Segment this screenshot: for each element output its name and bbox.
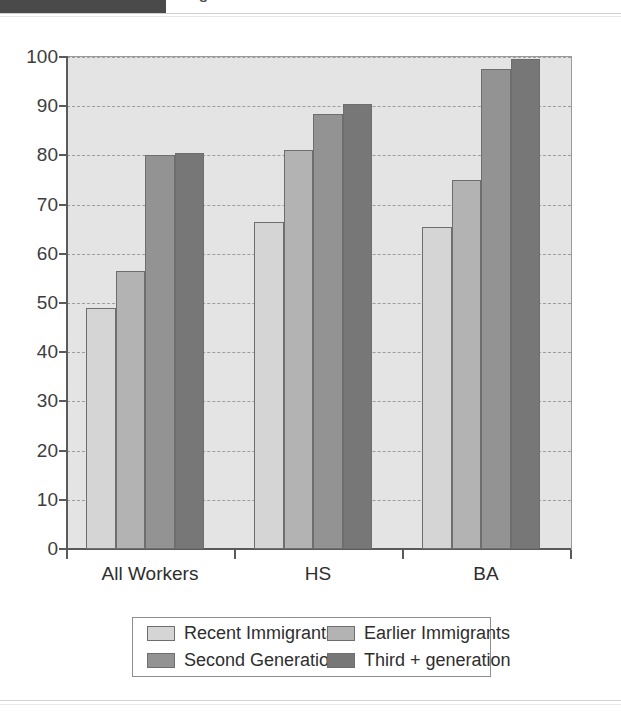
legend-item: Recent Immigrants (147, 620, 335, 646)
y-tick-label: 0 (14, 539, 58, 558)
page-title: Wage Differential of Mexican Female Rela… (176, 0, 621, 12)
y-tick-label: 40 (14, 342, 58, 361)
x-tick-label: BA (402, 563, 570, 585)
bar (511, 59, 541, 549)
bar (175, 153, 205, 549)
x-tick-mark (570, 550, 572, 559)
legend-swatch (327, 626, 355, 641)
bar (116, 271, 146, 549)
legend-swatch (327, 653, 355, 668)
bar (422, 227, 452, 549)
bar (86, 308, 116, 549)
footer-divider (0, 700, 621, 701)
bar (145, 155, 175, 549)
y-tick-label: 50 (14, 293, 58, 312)
header-divider-secondary (0, 16, 621, 17)
y-tick-label: 60 (14, 244, 58, 263)
bar (284, 150, 314, 549)
x-tick-mark (402, 550, 404, 559)
bar (481, 69, 511, 549)
page-header: Wage Differential of Mexican Female Rela… (0, 0, 621, 13)
bar (343, 104, 373, 549)
bar-chart-figure: 1009080706050403020100 All WorkersHSBA R… (0, 22, 621, 692)
legend-label: Second Generation (184, 650, 339, 671)
x-tick-mark (234, 550, 236, 559)
bar (452, 180, 482, 549)
x-tick-mark (66, 550, 68, 559)
legend-label: Earlier Immigrants (364, 623, 510, 644)
legend-row: Second GenerationThird + generation (133, 647, 490, 673)
y-tick-label: 10 (14, 490, 58, 509)
legend-item: Third + generation (327, 647, 511, 673)
legend-item: Earlier Immigrants (327, 620, 510, 646)
legend-label: Third + generation (364, 650, 511, 671)
legend-item: Second Generation (147, 647, 339, 673)
bar (313, 114, 343, 549)
bar (254, 222, 284, 549)
y-axis-labels: 1009080706050403020100 (0, 22, 58, 562)
x-tick-label: All Workers (66, 563, 234, 585)
bars-layer (67, 57, 570, 549)
header-divider (0, 13, 621, 14)
legend-swatch (147, 653, 175, 668)
x-tick-label: HS (234, 563, 402, 585)
y-tick-label: 30 (14, 391, 58, 410)
y-tick-label: 70 (14, 195, 58, 214)
y-tick-label: 20 (14, 441, 58, 460)
legend-label: Recent Immigrants (184, 623, 335, 644)
legend-swatch (147, 626, 175, 641)
header-accent-block (0, 0, 166, 13)
chart-legend: Recent ImmigrantsEarlier Immigrants Seco… (132, 617, 491, 677)
y-tick-label: 90 (14, 96, 58, 115)
legend-row: Recent ImmigrantsEarlier Immigrants (133, 620, 490, 646)
footer-divider-secondary (0, 704, 621, 705)
y-tick-label: 100 (14, 47, 58, 66)
y-tick-label: 80 (14, 145, 58, 164)
